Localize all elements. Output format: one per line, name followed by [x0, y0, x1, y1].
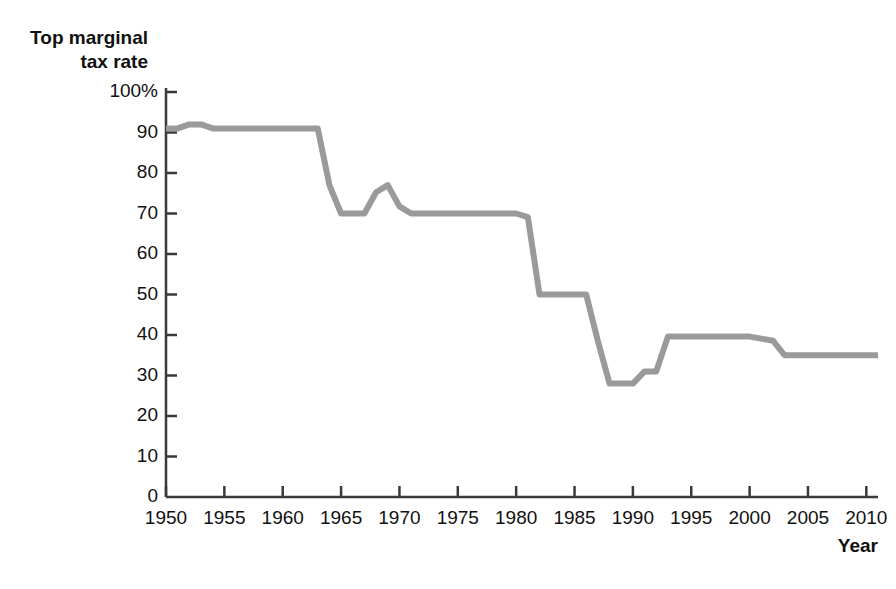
plot-area — [0, 0, 896, 589]
data-line-top-marginal-tax-rate — [166, 124, 878, 383]
tick-marks — [166, 92, 866, 497]
chart-container: Top marginaltax rate Year 01020304050607… — [0, 0, 896, 589]
axis-lines — [166, 88, 878, 497]
